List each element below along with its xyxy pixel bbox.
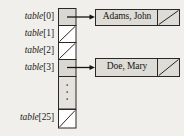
arrow-head-cell-0	[90, 14, 96, 19]
node-doe-text: Doe, Mary	[96, 61, 158, 71]
ellipsis-dot	[66, 98, 68, 100]
array-label-1: table[1]	[6, 28, 54, 38]
array-label-2-name: table	[25, 45, 44, 55]
array-label-0-name: table	[25, 11, 44, 21]
array-label-2-index: [2]	[43, 45, 54, 55]
array-label-25-name: table	[20, 112, 39, 122]
array-label-25-index: [25]	[39, 112, 54, 122]
array-label-3-name: table	[25, 62, 44, 72]
ellipsis-dot	[66, 91, 68, 93]
array-label-0-index: [0]	[43, 11, 54, 21]
array-column	[59, 9, 77, 129]
array-label-25: table[25]	[0, 112, 54, 122]
array-label-2: table[2]	[6, 45, 54, 55]
array-label-1-name: table	[25, 28, 44, 38]
arrow-head-cell-3	[90, 65, 96, 70]
array-label-3-index: [3]	[43, 62, 54, 72]
node-adams-text: Adams, John	[96, 11, 158, 21]
array-label-0: table[0]	[6, 11, 54, 21]
array-label-1-index: [1]	[43, 28, 54, 38]
ellipsis-dot	[66, 84, 68, 86]
array-label-3: table[3]	[6, 62, 54, 72]
